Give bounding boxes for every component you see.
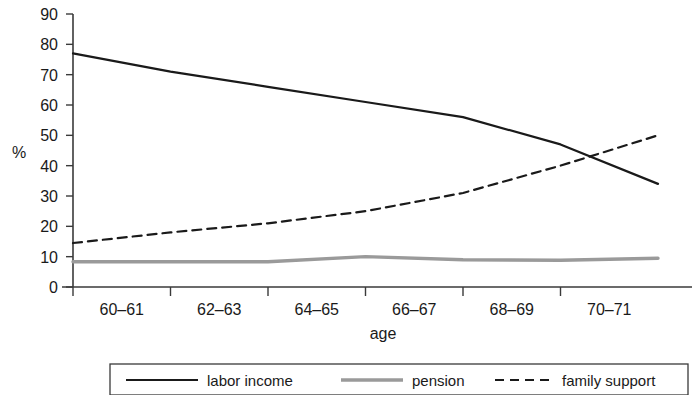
- x-tick-label: 60–61: [100, 301, 145, 318]
- x-tick-label: 66–67: [392, 301, 437, 318]
- y-tick-label: 50: [40, 127, 58, 144]
- x-tick-label: 68–69: [490, 301, 535, 318]
- chart-legend: labor incomepensionfamily support: [110, 364, 688, 395]
- series-lines: [73, 53, 658, 261]
- y-tick-label: 70: [40, 67, 58, 84]
- x-axis-ticks: 60–6162–6364–6566–6768–6970–71: [73, 287, 632, 318]
- series-line-pension: [73, 257, 658, 262]
- x-tick-label: 64–65: [295, 301, 340, 318]
- y-tick-label: 30: [40, 188, 58, 205]
- legend-label: labor income: [207, 372, 293, 389]
- series-line-family-support: [73, 135, 658, 243]
- y-axis-title: %: [12, 144, 26, 161]
- y-tick-label: 40: [40, 158, 58, 175]
- x-tick-label: 70–71: [587, 301, 632, 318]
- legend-label: pension: [412, 372, 465, 389]
- chart-svg: % 0102030405060708090 60–6162–6364–6566–…: [0, 0, 699, 395]
- legend-label: family support: [562, 372, 656, 389]
- line-chart-figure: % 0102030405060708090 60–6162–6364–6566–…: [0, 0, 699, 395]
- series-line-labor-income: [73, 53, 658, 183]
- x-axis-title: age: [370, 325, 397, 342]
- x-tick-label: 62–63: [197, 301, 242, 318]
- y-tick-label: 60: [40, 97, 58, 114]
- y-tick-label: 20: [40, 218, 58, 235]
- y-tick-label: 10: [40, 249, 58, 266]
- y-tick-label: 0: [49, 279, 58, 296]
- y-axis-ticks: 0102030405060708090: [40, 6, 73, 296]
- y-tick-label: 80: [40, 36, 58, 53]
- y-tick-label: 90: [40, 6, 58, 23]
